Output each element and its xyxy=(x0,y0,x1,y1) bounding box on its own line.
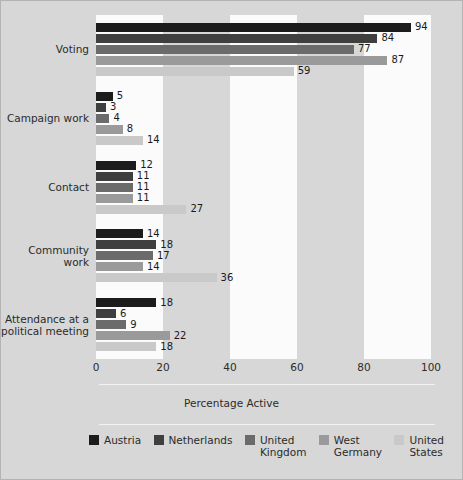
legend-swatch-icon xyxy=(245,435,255,445)
bar xyxy=(96,183,133,192)
bar-value-label: 18 xyxy=(160,342,173,352)
bar-group: 18692218 xyxy=(96,298,431,351)
bar-value-label: 27 xyxy=(190,204,203,214)
bar-row: 18 xyxy=(96,298,431,307)
legend-label: United Kingdom xyxy=(260,434,306,458)
legend-swatch-icon xyxy=(89,435,99,445)
bar xyxy=(96,194,133,203)
bar-value-label: 9 xyxy=(130,320,136,330)
bar-row: 17 xyxy=(96,251,431,260)
bar xyxy=(96,320,126,329)
legend-swatch-icon xyxy=(394,435,404,445)
bar xyxy=(96,34,377,43)
bar-value-label: 17 xyxy=(157,251,170,261)
bar-row: 14 xyxy=(96,262,431,271)
bar-row: 84 xyxy=(96,34,431,43)
legend-label: West Germany xyxy=(334,434,382,458)
bar-value-label: 18 xyxy=(160,298,173,308)
x-axis-title: Percentage Active xyxy=(1,397,462,409)
bar xyxy=(96,45,354,54)
bar-group: 1418171436 xyxy=(96,229,431,282)
bar-row: 4 xyxy=(96,114,431,123)
bar-row: 18 xyxy=(96,342,431,351)
legend-item[interactable]: West Germany xyxy=(319,434,382,458)
bar-group: 534814 xyxy=(96,92,431,145)
bar-value-label: 94 xyxy=(415,22,428,32)
bar-row: 94 xyxy=(96,23,431,32)
bar-value-label: 84 xyxy=(381,33,394,43)
x-tick-label: 20 xyxy=(156,361,169,373)
bar-value-label: 5 xyxy=(117,91,123,101)
divider-above-axis-title xyxy=(99,384,435,385)
bar-value-label: 14 xyxy=(147,135,160,145)
chart-figure: 9484778759534814121111112714181714361869… xyxy=(0,0,463,480)
legend-item[interactable]: Austria xyxy=(89,434,141,446)
legend-label: United States xyxy=(409,434,444,458)
bar-value-label: 77 xyxy=(358,44,371,54)
category-label: Voting xyxy=(1,43,89,55)
bar-value-label: 59 xyxy=(298,66,311,76)
plot-area: 9484778759534814121111112714181714361869… xyxy=(96,15,431,359)
bar-value-label: 6 xyxy=(120,309,126,319)
bar xyxy=(96,23,411,32)
bar-value-label: 11 xyxy=(137,171,150,181)
legend-swatch-icon xyxy=(319,435,329,445)
bar-row: 3 xyxy=(96,103,431,112)
bar-value-label: 18 xyxy=(160,240,173,250)
bar xyxy=(96,251,153,260)
bar-value-label: 12 xyxy=(140,160,153,170)
bar-group: 1211111127 xyxy=(96,161,431,214)
x-tick-label: 0 xyxy=(93,361,100,373)
legend-swatch-icon xyxy=(154,435,164,445)
bar-row: 11 xyxy=(96,183,431,192)
category-label: Campaign work xyxy=(1,112,89,124)
bar xyxy=(96,172,133,181)
bar-value-label: 36 xyxy=(221,273,234,283)
legend-label: Netherlands xyxy=(169,434,233,446)
bar-value-label: 3 xyxy=(110,102,116,112)
bar-row: 14 xyxy=(96,229,431,238)
bar-row: 8 xyxy=(96,125,431,134)
x-tick-label: 100 xyxy=(421,361,441,373)
bar xyxy=(96,125,123,134)
bar-group: 9484778759 xyxy=(96,23,431,76)
bar xyxy=(96,331,170,340)
bar xyxy=(96,342,156,351)
category-label: Community work xyxy=(1,244,89,268)
bar xyxy=(96,103,106,112)
bar-row: 77 xyxy=(96,45,431,54)
bar-row: 5 xyxy=(96,92,431,101)
legend-item[interactable]: United States xyxy=(394,434,444,458)
bar-row: 14 xyxy=(96,136,431,145)
category-label: Contact xyxy=(1,181,89,193)
category-axis-labels: VotingCampaign workContactCommunity work… xyxy=(1,15,89,359)
bar xyxy=(96,262,143,271)
bar xyxy=(96,229,143,238)
bar xyxy=(96,273,217,282)
bar xyxy=(96,161,136,170)
bar-row: 36 xyxy=(96,273,431,282)
legend-item[interactable]: Netherlands xyxy=(154,434,233,446)
bar-value-label: 4 xyxy=(113,113,119,123)
bar-row: 22 xyxy=(96,331,431,340)
x-tick-label: 40 xyxy=(223,361,236,373)
bar-value-label: 11 xyxy=(137,193,150,203)
bar xyxy=(96,205,186,214)
bar-value-label: 8 xyxy=(127,124,133,134)
bar xyxy=(96,56,387,65)
bar-row: 9 xyxy=(96,320,431,329)
bar-row: 18 xyxy=(96,240,431,249)
bar xyxy=(96,240,156,249)
bar xyxy=(96,309,116,318)
bar-row: 59 xyxy=(96,67,431,76)
bar-value-label: 14 xyxy=(147,229,160,239)
bar xyxy=(96,67,294,76)
legend-item[interactable]: United Kingdom xyxy=(245,434,306,458)
legend-label: Austria xyxy=(104,434,141,446)
bar-row: 12 xyxy=(96,161,431,170)
bar xyxy=(96,92,113,101)
divider-above-legend xyxy=(99,424,435,425)
bar xyxy=(96,136,143,145)
bar-value-label: 22 xyxy=(174,331,187,341)
bar-row: 11 xyxy=(96,194,431,203)
